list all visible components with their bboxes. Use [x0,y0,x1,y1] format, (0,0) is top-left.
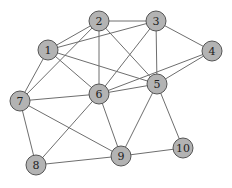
node-7: 7 [10,91,30,111]
node-1: 1 [38,40,58,60]
node-label: 5 [154,78,161,91]
edge-6-8 [36,94,99,165]
node-5: 5 [147,74,167,94]
node-label: 1 [45,44,52,57]
node-10: 10 [173,138,193,158]
node-6: 6 [89,84,109,104]
node-label: 10 [176,142,190,155]
node-label: 7 [17,95,24,108]
edge-2-7 [20,21,99,101]
node-label: 6 [96,88,103,101]
edge-1-5 [48,50,157,84]
edge-8-9 [36,156,121,165]
node-label: 3 [153,15,160,28]
edge-5-9 [121,84,157,156]
node-4: 4 [202,41,222,61]
node-label: 4 [209,45,216,58]
node-label: 2 [96,15,103,28]
node-label: 9 [118,150,125,163]
node-2: 2 [89,11,109,31]
node-9: 9 [111,146,131,166]
node-3: 3 [146,11,166,31]
edge-7-9 [20,101,121,156]
network-graph: 12345678910 [0,0,232,188]
edge-6-7 [20,94,99,101]
node-8: 8 [26,155,46,175]
nodes-layer: 12345678910 [10,11,222,175]
node-label: 8 [33,159,40,172]
